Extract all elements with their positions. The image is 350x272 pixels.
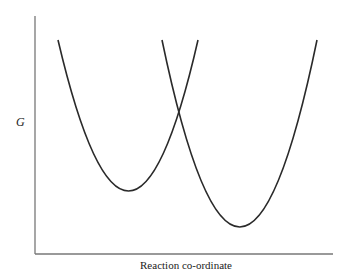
x-axis-label: Reaction co-ordinate — [0, 259, 350, 271]
reactant-parabola — [58, 40, 198, 191]
product-parabola — [162, 40, 317, 227]
y-axis-label: G — [16, 115, 25, 130]
diagram-canvas — [0, 0, 350, 272]
